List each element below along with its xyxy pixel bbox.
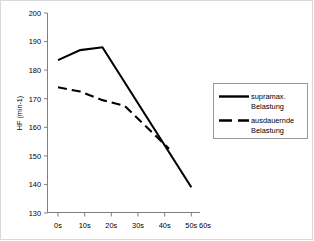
x-tick-label: 0s [54,221,62,230]
legend-label-ausdauernde-line1: ausdauernde [251,116,294,125]
chart-figure: 200 190 180 170 160 150 140 130 0s 10s 2… [0,0,314,241]
legend-label-ausdauernde-line2: Belastung [251,126,284,135]
y-tick-labels: 200 190 180 170 160 150 140 130 [29,9,41,218]
y-tick-label: 150 [29,152,41,161]
legend-label-supramax-line2: Belastung [251,102,284,111]
x-tick-label: 40s [159,221,171,230]
y-tick-label: 130 [29,209,41,218]
x-tick-label: 30s [132,221,144,230]
y-tick-label: 160 [29,123,41,132]
y-axis-ticks [44,13,48,213]
x-tick-label: 50s [185,221,197,230]
x-tick-label: 20s [105,221,117,230]
line-chart-svg: 200 190 180 170 160 150 140 130 0s 10s 2… [0,0,314,241]
x-axis-ticks [58,213,191,217]
x-tick-label: 10s [79,221,91,230]
series-line-supramax [58,47,191,187]
x-tick-label: 60s [199,221,211,230]
y-axis-title: HF (min-1) [15,96,24,130]
legend-label-supramax-line1: supramax. [251,92,286,101]
y-tick-label: 200 [29,9,41,18]
y-tick-label: 140 [29,180,41,189]
y-tick-label: 180 [29,66,41,75]
x-tick-labels: 0s 10s 20s 30s 40s 50s 60s [54,221,211,230]
series-line-ausdauernde [58,87,169,148]
chart-legend: supramax. Belastung ausdauernde Belastun… [214,84,308,139]
y-tick-label: 170 [29,95,41,104]
y-tick-label: 190 [29,37,41,46]
